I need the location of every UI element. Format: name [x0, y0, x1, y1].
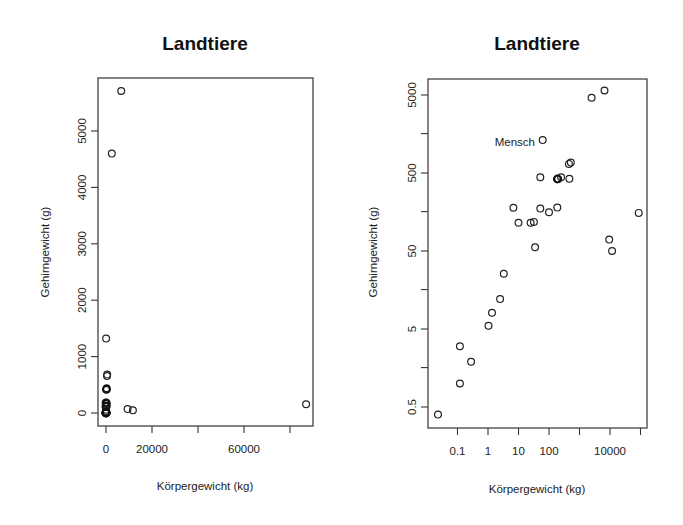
x-tick-label: 100 [539, 445, 558, 457]
data-point [118, 88, 125, 95]
data-point [567, 159, 574, 166]
y-tick-label: 5 [406, 326, 418, 332]
data-point [457, 380, 464, 387]
annotation-mensch: Mensch [495, 136, 535, 148]
data-point [566, 175, 573, 182]
data-point [457, 343, 464, 350]
x-tick-label: 60000 [228, 443, 260, 455]
x-tick-label: 10000 [594, 445, 626, 457]
x-tick-label: 0 [103, 443, 109, 455]
right-x-axis-label: Körpergewicht (kg) [489, 483, 586, 495]
y-tick-label: 3000 [76, 231, 88, 257]
y-tick-label: 5000 [76, 118, 88, 144]
left-x-axis-label: Körpergewicht (kg) [157, 480, 254, 492]
data-point [635, 210, 642, 217]
data-point [489, 309, 496, 316]
figure-canvas: Landtiere 010002000300040005000 02000060… [0, 0, 683, 525]
x-tick-label: 10 [512, 445, 525, 457]
left-plot: Landtiere 010002000300040005000 02000060… [39, 33, 313, 492]
data-point [532, 244, 539, 251]
left-plot-frame [98, 78, 313, 426]
data-point [303, 401, 310, 408]
left-y-axis-label: Gehirngewicht (g) [39, 206, 51, 297]
right-data-points [435, 87, 642, 418]
y-tick-label: 4000 [76, 175, 88, 201]
data-point [468, 358, 475, 365]
x-tick-label: 20000 [136, 443, 168, 455]
data-point [588, 94, 595, 101]
y-tick-label: 5000 [406, 82, 418, 108]
y-tick-label: 1000 [76, 344, 88, 370]
left-x-axis: 02000060000 [103, 426, 290, 455]
left-y-axis: 010002000300040005000 [76, 118, 98, 416]
y-tick-label: 500 [406, 163, 418, 182]
x-tick-label: 1 [485, 445, 491, 457]
data-point [500, 270, 507, 277]
data-point [537, 174, 544, 181]
data-point [537, 205, 544, 212]
data-point [485, 322, 492, 329]
data-point-mensch [539, 137, 546, 144]
data-point [510, 204, 517, 211]
y-tick-label: 0.5 [406, 399, 418, 415]
data-point [606, 236, 613, 243]
y-tick-label: 0 [76, 410, 88, 416]
data-point [554, 204, 561, 211]
y-tick-label: 2000 [76, 287, 88, 313]
right-plot-title: Landtiere [494, 33, 580, 54]
data-point [103, 335, 110, 342]
right-plot: Landtiere 0.55505005000 0.111010010000 M… [367, 33, 647, 495]
right-y-axis-label: Gehirngewicht (g) [367, 206, 379, 297]
x-tick-label: 0.1 [450, 445, 466, 457]
data-point [546, 209, 553, 216]
right-x-axis: 0.111010010000 [450, 428, 641, 457]
left-plot-title: Landtiere [162, 33, 248, 54]
data-point [108, 150, 115, 157]
right-y-axis: 0.55505005000 [406, 82, 428, 415]
data-point [435, 411, 442, 418]
data-point [609, 248, 616, 255]
data-point [601, 87, 608, 94]
data-point [497, 296, 504, 303]
y-tick-label: 50 [406, 245, 418, 258]
left-data-points [103, 88, 310, 417]
data-point [515, 219, 522, 226]
